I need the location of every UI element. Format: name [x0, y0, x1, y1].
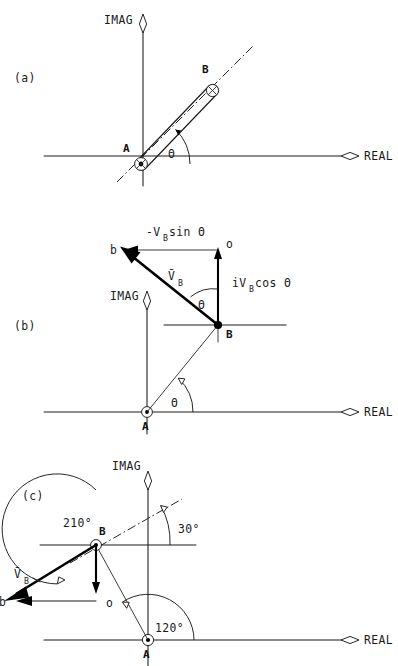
real-axis-arrowhead — [341, 408, 359, 415]
panel-a-real-axis: REAL — [44, 149, 393, 163]
panel-c-imag-label: IMAG — [112, 459, 141, 473]
panel-a-link-rod — [136, 85, 218, 170]
panel-b-imag-label: IMAG — [110, 289, 139, 303]
panel-c-real-axis: REAL — [44, 633, 393, 647]
imag-axis-arrowhead — [143, 291, 150, 310]
panel-a-label-A: A — [123, 142, 130, 155]
panel-c-angle-120: 120° — [122, 594, 194, 640]
panel-c-angle-210-arrowhead — [57, 577, 65, 584]
panel-b-theta-B-label: Θ — [198, 298, 205, 312]
panel-b-vertical-label-sub: B — [249, 284, 254, 294]
imag-axis-arrowhead — [144, 471, 151, 490]
panel-c-label-A: A — [143, 648, 150, 661]
panel-b-label-o: o — [226, 237, 233, 251]
panel-b-real-label: REAL — [364, 405, 393, 419]
panel-b-vector-vertical: iV B cos Θ — [214, 247, 291, 325]
panel-c-real-label: REAL — [364, 633, 393, 647]
panel-a-caption: (a) — [14, 71, 36, 85]
panel-a: (a) REAL IMAG A — [14, 13, 393, 186]
real-axis-arrowhead — [341, 636, 359, 643]
panel-b-angle-theta-B: Θ — [191, 289, 218, 312]
panel-b-label-b: b — [110, 243, 117, 257]
panel-c-label-B: B — [99, 525, 106, 538]
panel-c-vector-vertical — [92, 545, 100, 594]
real-axis-arrowhead — [341, 152, 359, 159]
panel-c-vb-label: V̄ — [14, 567, 21, 581]
imag-axis-arrowhead — [139, 14, 146, 33]
panel-b-vb-label: V̄ — [168, 269, 175, 283]
panel-b-vector-vb: V̄ B — [120, 247, 218, 325]
panel-b-vertical-label-tail: cos Θ — [255, 276, 291, 290]
panel-b-line-AB — [147, 325, 218, 412]
panel-c-vector-vb: V̄ B — [4, 545, 96, 601]
panel-b-theta-A-label: Θ — [171, 396, 178, 410]
panel-c-node-A: A — [142, 634, 153, 661]
panel-c-angle-30-label: 30° — [178, 522, 200, 536]
panel-c-caption: (c) — [22, 489, 44, 503]
panel-a-node-B: B — [202, 63, 219, 97]
panel-a-imag-label: IMAG — [104, 13, 133, 27]
panel-c-label-o: o — [106, 596, 113, 610]
panel-c-angle-30: 30° — [161, 506, 200, 546]
panel-a-label-B: B — [202, 63, 209, 76]
panel-b-vertical-label-main: iV — [232, 276, 247, 290]
panel-c-label-b: b — [0, 595, 6, 609]
panel-c-vertical-arrowhead — [92, 582, 100, 594]
panel-b-real-axis: REAL — [44, 405, 393, 419]
figure-root: (a) REAL IMAG A — [0, 0, 398, 666]
panel-c-angle-30-arrowhead — [161, 506, 168, 513]
panel-b-label-A: A — [142, 420, 149, 433]
panel-b-node-A: A — [142, 407, 153, 433]
panel-b: (b) REAL IMAG A B — [14, 225, 393, 434]
panel-c-line-AB — [96, 545, 148, 640]
panel-b-caption: (b) — [14, 319, 36, 333]
panel-c-angle-120-label: 120° — [155, 621, 184, 635]
panel-a-real-label: REAL — [364, 149, 393, 163]
panel-b-angle-theta-A: Θ — [171, 378, 193, 412]
panel-c-vector-horizontal — [16, 596, 96, 606]
panel-a-angle-theta: Θ — [168, 129, 190, 164]
panel-b-horizontal-label-sub: B — [163, 233, 168, 243]
diagram-svg: (a) REAL IMAG A — [0, 0, 398, 666]
panel-a-theta-label: Θ — [168, 147, 175, 161]
panel-c-vb-subscript: B — [24, 576, 29, 586]
panel-b-vector-horizontal: -V B sin Θ — [124, 225, 218, 254]
panel-b-label-B: B — [226, 328, 233, 341]
panel-c: (c) REAL IMAG A B — [0, 459, 393, 666]
panel-b-horizontal-label-tail: sin Θ — [169, 225, 205, 239]
panel-c-angle-210-label: 210° — [63, 516, 92, 530]
panel-b-vb-subscript: B — [178, 278, 183, 288]
panel-b-vertical-arrowhead — [214, 247, 222, 259]
panel-b-horizontal-label-main: -V — [146, 225, 161, 239]
panel-c-angle-120-arrowhead — [122, 602, 129, 608]
